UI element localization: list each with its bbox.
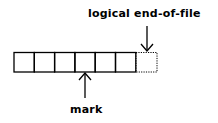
dotted-cell-eof bbox=[136, 53, 157, 73]
eof-label: logical end-of-file bbox=[88, 7, 201, 20]
mark-arrow-icon bbox=[79, 73, 91, 98]
eof-arrow-icon bbox=[141, 26, 153, 51]
mark-label: mark bbox=[70, 103, 102, 116]
solid-cells bbox=[14, 53, 136, 73]
